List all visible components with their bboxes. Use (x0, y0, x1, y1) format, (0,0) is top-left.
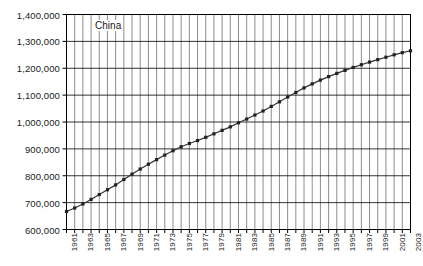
data-point (114, 183, 117, 186)
data-point (65, 210, 68, 213)
y-axis-tick-label: 1,100,000 (17, 90, 60, 101)
data-point (122, 178, 125, 181)
x-axis-tick-label: 1969 (136, 233, 145, 251)
y-axis-tick-label: 700,000 (25, 197, 60, 208)
population-line-chart: 1,400,0001,300,0001,200,0001,100,0001,00… (0, 0, 423, 266)
y-axis-tick-label: 1,300,000 (17, 36, 60, 47)
data-point (98, 193, 101, 196)
x-axis-tick-label: 2001 (398, 233, 407, 251)
y-axis-tick-label: 800,000 (25, 170, 60, 181)
data-point (311, 82, 314, 85)
data-point (106, 188, 109, 191)
x-axis-tick-label: 1961 (70, 233, 79, 251)
x-axis-tick-label: 1963 (86, 233, 95, 251)
data-point (196, 139, 199, 142)
data-point (130, 173, 133, 176)
x-axis-tick-label: 1983 (250, 233, 259, 251)
y-axis-labels: 1,400,0001,300,0001,200,0001,100,0001,00… (0, 0, 60, 266)
data-point (212, 132, 215, 135)
data-point (352, 66, 355, 69)
data-point (89, 198, 92, 201)
data-point (204, 136, 207, 139)
data-point (302, 86, 305, 89)
data-point (409, 49, 412, 52)
data-point (221, 129, 224, 132)
plot-area (0, 0, 423, 266)
x-axis-tick-label: 1981 (234, 233, 243, 251)
data-point (343, 69, 346, 72)
data-point (171, 149, 174, 152)
x-axis-tick-label: 1999 (381, 233, 390, 251)
y-axis-tick-label: 1,400,000 (17, 9, 60, 20)
data-point (163, 153, 166, 156)
x-axis-tick-label: 1971 (152, 233, 161, 251)
x-axis-tick-label: 1987 (283, 233, 292, 251)
data-point (319, 78, 322, 81)
data-point (155, 158, 158, 161)
data-point (368, 60, 371, 63)
x-axis-tick-label: 1973 (168, 233, 177, 251)
x-axis-tick-label: 1985 (267, 233, 276, 251)
data-point (393, 53, 396, 56)
data-point (384, 56, 387, 59)
x-axis-labels: 1961196319651967196919711973197519771979… (0, 233, 423, 266)
x-axis-tick-label: 1997 (365, 233, 374, 251)
data-point (278, 100, 281, 103)
x-axis-tick-label: 1979 (217, 233, 226, 251)
data-point (73, 206, 76, 209)
data-point (253, 113, 256, 116)
data-point (401, 51, 404, 54)
data-point (294, 91, 297, 94)
data-point (335, 72, 338, 75)
data-point (237, 121, 240, 124)
data-point (139, 167, 142, 170)
x-axis-tick-label: 1989 (299, 233, 308, 251)
data-point (261, 109, 264, 112)
x-axis-tick-label: 2003 (414, 233, 423, 251)
series-label-china: China (93, 20, 123, 31)
data-point (327, 75, 330, 78)
data-point (245, 117, 248, 120)
data-point (180, 145, 183, 148)
data-point (376, 58, 379, 61)
data-point (229, 125, 232, 128)
data-point (286, 95, 289, 98)
x-axis-tick-label: 1977 (201, 233, 210, 251)
x-axis-tick-label: 1965 (103, 233, 112, 251)
y-axis-tick-label: 1,200,000 (17, 63, 60, 74)
x-axis-tick-label: 1991 (316, 233, 325, 251)
y-axis-ticks (63, 15, 67, 230)
data-point (81, 202, 84, 205)
x-axis-tick-label: 1995 (348, 233, 357, 251)
data-point (147, 163, 150, 166)
data-point (270, 105, 273, 108)
data-point (188, 142, 191, 145)
y-axis-tick-label: 900,000 (25, 143, 60, 154)
y-axis-tick-label: 1,000,000 (17, 117, 60, 128)
x-axis-tick-label: 1975 (185, 233, 194, 251)
data-point (360, 63, 363, 66)
x-axis-tick-label: 1967 (119, 233, 128, 251)
x-axis-tick-label: 1993 (332, 233, 341, 251)
